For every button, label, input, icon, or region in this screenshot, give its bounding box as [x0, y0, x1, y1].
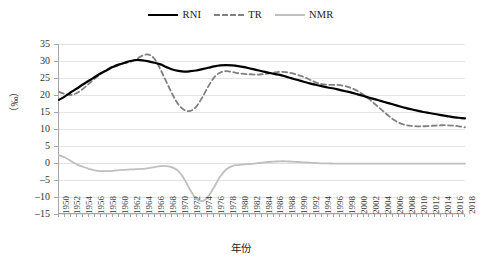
- x-axis-tick-mark: [154, 214, 155, 217]
- legend-item-rni: RNI: [148, 10, 201, 20]
- x-axis-tick-mark: [452, 214, 453, 217]
- chart-legend: RNI TR NMR: [0, 10, 482, 20]
- y-axis-tick-label: 5: [24, 141, 50, 151]
- x-axis-tick-mark: [64, 214, 65, 217]
- x-axis-tick-mark: [118, 214, 119, 217]
- x-axis-tick-mark: [100, 214, 101, 217]
- y-axis-tick-label: 15: [24, 107, 50, 117]
- x-axis-labels: 1950195219541956195819601962196419661968…: [58, 168, 464, 214]
- x-axis-tick-mark: [189, 214, 190, 217]
- x-axis-tick-mark: [345, 214, 346, 217]
- series-line-rni: [59, 60, 465, 119]
- x-axis-tick-mark: [136, 214, 137, 217]
- x-axis-tick-mark: [339, 214, 340, 217]
- x-axis-tick-mark: [404, 214, 405, 217]
- x-axis-tick-mark: [94, 214, 95, 217]
- y-axis-title: （‰）: [9, 80, 20, 124]
- x-axis-ticks: [58, 214, 464, 216]
- x-axis-tick-mark: [267, 214, 268, 217]
- x-axis-tick-mark: [285, 214, 286, 217]
- x-axis-tick-mark: [464, 214, 465, 217]
- x-axis-tick-mark: [363, 214, 364, 217]
- legend-label-nmr: NMR: [309, 10, 334, 20]
- x-axis-tick-mark: [428, 214, 429, 217]
- x-axis-tick-mark: [398, 214, 399, 217]
- x-axis-tick-mark: [434, 214, 435, 217]
- x-axis-tick-mark: [458, 214, 459, 217]
- x-axis-title: 年份: [0, 243, 482, 255]
- x-axis-tick-mark: [440, 214, 441, 217]
- x-axis-tick-mark: [357, 214, 358, 217]
- x-axis-tick-mark: [303, 214, 304, 217]
- x-axis-tick-mark: [392, 214, 393, 217]
- x-axis-tick-mark: [177, 214, 178, 217]
- x-axis-tick-mark: [82, 214, 83, 217]
- x-axis-tick-mark: [410, 214, 411, 217]
- x-axis-tick-mark: [165, 214, 166, 217]
- x-axis-tick-mark: [112, 214, 113, 217]
- x-axis-tick-mark: [148, 214, 149, 217]
- legend-swatch-rni-icon: [148, 14, 178, 16]
- x-axis-tick-mark: [207, 214, 208, 217]
- x-axis-tick-mark: [225, 214, 226, 217]
- legend-swatch-tr-icon: [214, 14, 244, 16]
- x-axis-tick-mark: [76, 214, 77, 217]
- x-axis-tick-mark: [237, 214, 238, 217]
- x-axis-tick-mark: [243, 214, 244, 217]
- y-axis-tick-label: 25: [24, 73, 50, 83]
- x-axis-tick-mark: [219, 214, 220, 217]
- legend-label-tr: TR: [248, 10, 262, 20]
- x-axis-tick-mark: [422, 214, 423, 217]
- x-axis-tick-mark: [70, 214, 71, 217]
- x-axis-tick-mark: [333, 214, 334, 217]
- y-axis-tick-label: 20: [24, 90, 50, 100]
- x-axis-tick-mark: [124, 214, 125, 217]
- x-axis-tick-mark: [106, 214, 107, 217]
- y-axis-tick-label: 35: [24, 39, 50, 49]
- legend-item-nmr: NMR: [275, 10, 334, 20]
- y-axis-tick-label: –15: [24, 209, 50, 219]
- x-axis-tick-mark: [183, 214, 184, 217]
- x-axis-tick-mark: [201, 214, 202, 217]
- x-axis-tick-mark: [291, 214, 292, 217]
- y-axis-tick-label: –10: [24, 192, 50, 202]
- x-axis-tick-mark: [327, 214, 328, 217]
- x-axis-tick-mark: [386, 214, 387, 217]
- x-axis-tick-mark: [58, 214, 59, 217]
- legend-item-tr: TR: [214, 10, 262, 20]
- x-axis-tick-mark: [351, 214, 352, 217]
- x-axis-tick-mark: [446, 214, 447, 217]
- x-axis-tick-mark: [273, 214, 274, 217]
- y-axis-tick-label: 10: [24, 124, 50, 134]
- x-axis-tick-mark: [213, 214, 214, 217]
- x-axis-tick-mark: [130, 214, 131, 217]
- x-axis-tick-mark: [142, 214, 143, 217]
- y-axis-tick-label: 30: [24, 56, 50, 66]
- x-axis-tick-mark: [321, 214, 322, 217]
- x-axis-tick-mark: [88, 214, 89, 217]
- y-axis-tick-label: –5: [24, 175, 50, 185]
- x-axis-tick-mark: [279, 214, 280, 217]
- x-axis-tick-mark: [374, 214, 375, 217]
- x-axis-tick-mark: [249, 214, 250, 217]
- x-axis-tick-mark: [368, 214, 369, 217]
- x-axis-tick-mark: [231, 214, 232, 217]
- x-axis-tick-mark: [309, 214, 310, 217]
- legend-label-rni: RNI: [182, 10, 201, 20]
- x-axis-tick-mark: [261, 214, 262, 217]
- x-axis-tick-mark: [171, 214, 172, 217]
- x-axis-tick-mark: [297, 214, 298, 217]
- x-axis-tick-mark: [160, 214, 161, 217]
- x-axis-tick-mark: [380, 214, 381, 217]
- x-axis-tick-mark: [195, 214, 196, 217]
- x-axis-tick-mark: [255, 214, 256, 217]
- x-axis-tick-mark: [315, 214, 316, 217]
- chart-container: RNI TR NMR （‰） 35302520151050–5–10–15 19…: [0, 0, 482, 268]
- y-axis-tick-label: 0: [24, 158, 50, 168]
- legend-swatch-nmr-icon: [275, 14, 305, 16]
- x-axis-tick-mark: [416, 214, 417, 217]
